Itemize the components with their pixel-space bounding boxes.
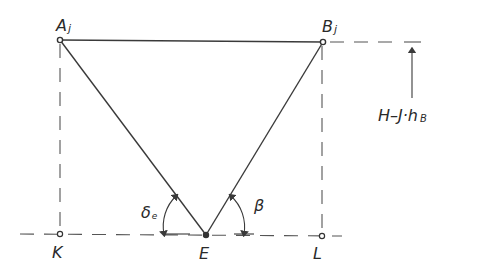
- label-K: K: [52, 243, 64, 262]
- label-B: Bj: [322, 17, 338, 36]
- line-A-B: [60, 40, 323, 42]
- label-L: L: [313, 244, 322, 263]
- point-K: [57, 231, 62, 236]
- line-B-E: [206, 42, 323, 235]
- angle-arc-beta: [231, 196, 245, 234]
- label-angle-beta: β: [253, 196, 264, 215]
- triangulation-diagram: Aj Bj E K L δe β H–J·hB: [0, 0, 479, 273]
- point-B: [320, 39, 325, 44]
- label-E: E: [199, 244, 210, 263]
- point-A: [57, 37, 62, 42]
- label-A: Aj: [55, 16, 72, 35]
- label-angle-delta: δe: [141, 203, 158, 222]
- label-height: H–J·hB: [378, 106, 427, 125]
- line-A-E: [60, 40, 206, 235]
- point-L: [319, 233, 324, 238]
- point-E: [203, 232, 208, 237]
- angle-arc-delta: [163, 196, 176, 234]
